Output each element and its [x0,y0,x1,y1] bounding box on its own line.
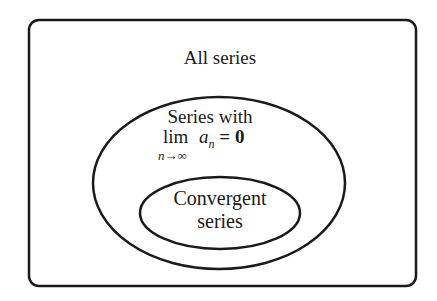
all-series-label: All series [160,47,280,69]
convergent-label-line1: Convergent [150,187,290,210]
term-sub-n: n [209,137,215,151]
convergent-label-line2: series [150,210,290,233]
lim-text: lim [163,126,188,147]
lim-subscript: n→∞ [158,148,187,164]
term-a: a [199,126,209,147]
lim-zero-label-line1: Series with [150,106,270,128]
equals-zero: = 0 [219,126,244,147]
